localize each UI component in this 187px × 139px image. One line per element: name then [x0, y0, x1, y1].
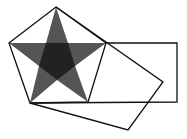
geometry-diagram [0, 0, 187, 139]
